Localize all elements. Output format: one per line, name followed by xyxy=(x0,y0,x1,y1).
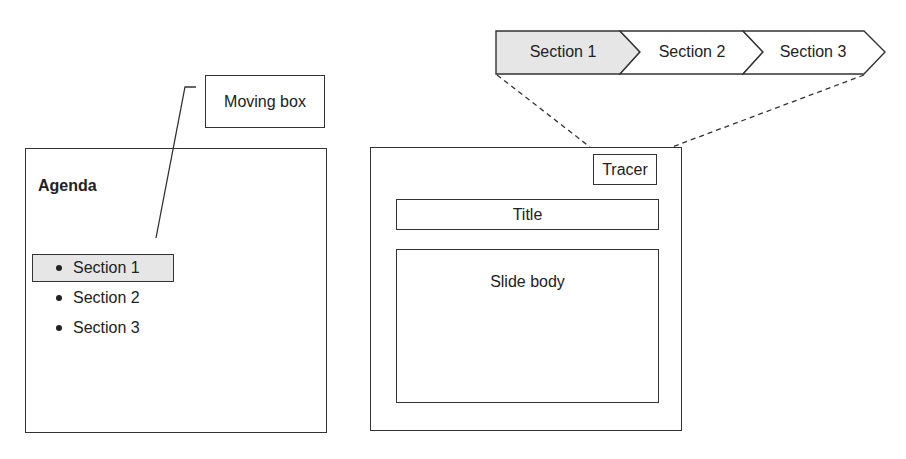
agenda-item-label: Section 3 xyxy=(73,319,140,337)
bullet-icon xyxy=(56,325,62,331)
agenda-item-label: Section 1 xyxy=(73,259,140,277)
agenda-item-section-1[interactable]: Section 1 xyxy=(56,254,140,282)
breadcrumb-item-section-1[interactable]: Section 1 xyxy=(500,43,626,61)
slide-body-box: Slide body xyxy=(396,249,659,403)
agenda-list: Section 1 Section 2 Section 3 xyxy=(56,254,140,342)
bullet-icon xyxy=(56,265,62,271)
agenda-item-label: Section 2 xyxy=(73,289,140,307)
breadcrumb-label: Section 3 xyxy=(780,43,847,61)
tracer-box: Tracer xyxy=(593,154,657,185)
slide-title-label: Title xyxy=(513,206,543,224)
agenda-title: Agenda xyxy=(38,177,97,195)
breadcrumb-item-section-2[interactable]: Section 2 xyxy=(632,43,752,61)
agenda-item-section-3[interactable]: Section 3 xyxy=(56,314,140,342)
zoom-line-left xyxy=(497,75,590,147)
moving-box-label: Moving box xyxy=(224,93,306,111)
breadcrumb-label: Section 1 xyxy=(530,43,597,61)
zoom-line-right xyxy=(672,75,864,147)
agenda-item-section-2[interactable]: Section 2 xyxy=(56,284,140,312)
slide-body-label: Slide body xyxy=(490,273,565,402)
bullet-icon xyxy=(56,295,62,301)
breadcrumb-item-section-3[interactable]: Section 3 xyxy=(755,43,871,61)
tracer-label: Tracer xyxy=(602,161,648,179)
moving-box-callout: Moving box xyxy=(205,75,325,128)
slide-title-box: Title xyxy=(396,199,659,230)
breadcrumb-label: Section 2 xyxy=(659,43,726,61)
